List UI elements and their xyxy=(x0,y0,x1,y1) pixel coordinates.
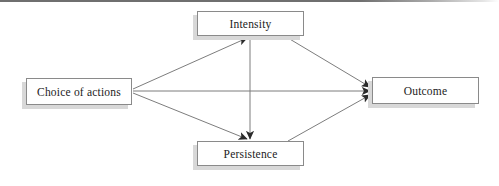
node-intensity-label: Intensity xyxy=(229,18,271,30)
node-persistence[interactable]: Persistence xyxy=(197,141,304,166)
node-outcome[interactable]: Outcome xyxy=(372,77,479,104)
edge-choice-to-intensity xyxy=(133,38,247,89)
node-choice-of-actions[interactable]: Choice of actions xyxy=(26,78,132,105)
diagram-canvas: Intensity Persistence Choice of actions … xyxy=(0,0,499,186)
node-choice-of-actions-label: Choice of actions xyxy=(37,86,121,98)
edge-choice-to-persistence xyxy=(133,93,247,139)
node-persistence-label: Persistence xyxy=(224,148,278,160)
node-intensity[interactable]: Intensity xyxy=(197,11,304,36)
edge-persistence-to-outcome xyxy=(288,95,370,141)
node-outcome-label: Outcome xyxy=(404,85,448,97)
edge-intensity-to-outcome xyxy=(288,38,370,87)
